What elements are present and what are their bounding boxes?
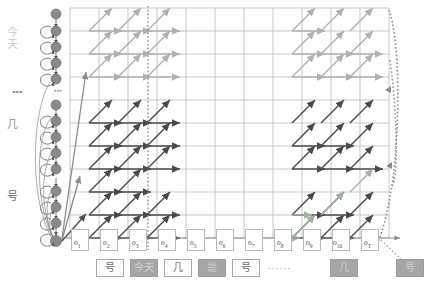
- observation-label-T: oT: [364, 238, 371, 249]
- output-token-6[interactable]: 几: [330, 259, 358, 277]
- backtrace-curve-right: [378, 10, 398, 242]
- path-cluster-mid-right: [292, 100, 383, 169]
- path-cluster-mid-left: [89, 100, 180, 169]
- observation-label-7: o7: [248, 238, 255, 249]
- observation-label-8: o8: [277, 238, 284, 249]
- observation-label-4: o4: [161, 238, 168, 249]
- observation-label-2: o2: [103, 238, 110, 249]
- path-cluster-top-right: [292, 8, 383, 77]
- output-token-2[interactable]: 几: [164, 259, 192, 277]
- observation-label-1: o1: [74, 238, 81, 249]
- observation-label-6: o6: [219, 238, 226, 249]
- observation-label-5: o5: [190, 238, 197, 249]
- observation-label-9: o9: [306, 238, 313, 249]
- output-token-3[interactable]: 是: [198, 259, 226, 277]
- observation-label-10: o10: [333, 238, 342, 249]
- output-token-4[interactable]: 号: [232, 259, 260, 277]
- output-token-7[interactable]: 号: [396, 259, 424, 277]
- output-token-1[interactable]: 今天: [130, 259, 158, 277]
- output-token-0[interactable]: 号: [96, 259, 124, 277]
- state-node-ellipsis: ⋮: [53, 86, 63, 96]
- observation-label-3: o3: [132, 238, 139, 249]
- trellis-diagram: 今天 ⋮ 几 号: [0, 0, 442, 289]
- backtrace-tick-arrows: [385, 86, 392, 169]
- output-ellipsis: ······: [268, 264, 291, 274]
- path-cluster-bottom-left: [89, 169, 180, 238]
- path-cluster-top-left: [89, 8, 180, 77]
- state-node-column: [35, 9, 86, 247]
